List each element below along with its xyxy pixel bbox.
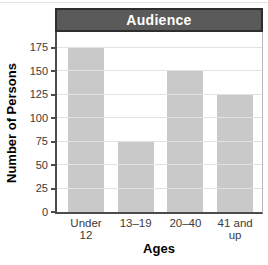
y-tick-100 [51,117,55,119]
gridline-150 [57,70,262,71]
gridline-175 [57,47,262,48]
y-tick-175 [51,47,55,49]
gridline-25 [57,188,262,189]
y-tick-label-0: 0 [8,206,48,219]
y-tick-label-125: 125 [8,88,48,101]
y-tick-150 [51,70,55,72]
y-axis: 0255075100125150175 [0,32,55,214]
y-tick-label-100: 100 [8,112,48,125]
x-label-41-and-up: 41 andup [203,217,267,241]
gridline-125 [57,94,262,95]
plot-area [55,32,263,214]
gridline-50 [57,164,262,165]
y-tick-50 [51,164,55,166]
bar-41-and-up [217,95,253,212]
page-top-rule [0,2,268,3]
gridline-75 [57,141,262,142]
audience-bar-chart: Audience Number of Persons 0255075100125… [0,0,268,265]
y-tick-label-175: 175 [8,41,48,54]
y-tick-125 [51,94,55,96]
x-label-line: 12 [54,229,118,241]
y-tick-0 [51,211,55,213]
bar-13-19 [118,142,154,212]
x-label-line: 41 and [203,217,267,229]
x-axis-title: Ages [55,241,263,256]
y-tick-label-150: 150 [8,65,48,78]
bar-20-40 [167,71,203,212]
y-tick-label-50: 50 [8,159,48,172]
y-tick-label-75: 75 [8,135,48,148]
chart-title-bar: Audience [55,8,263,32]
y-tick-label-25: 25 [8,182,48,195]
y-tick-75 [51,141,55,143]
chart-title: Audience [126,12,191,28]
y-tick-25 [51,188,55,190]
x-label-line: up [203,229,267,241]
gridline-100 [57,117,262,118]
x-axis-labels: Under1213–1920–4041 andup [57,217,262,243]
